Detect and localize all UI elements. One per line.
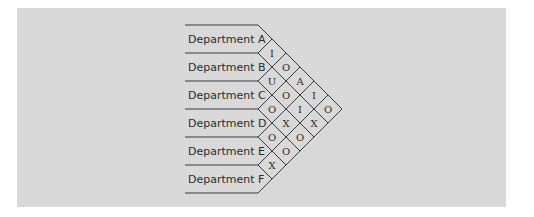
relationship-code: O — [282, 90, 290, 101]
relationship-code: I — [312, 90, 316, 101]
relationship-code: O — [296, 132, 304, 143]
relationship-code: X — [268, 160, 276, 171]
department-label: Department F — [188, 173, 264, 186]
relationship-code: O — [282, 62, 290, 73]
relationship-code: I — [298, 104, 302, 115]
department-label: Department A — [188, 33, 266, 46]
department-label: Department E — [188, 145, 265, 158]
relationship-code: O — [324, 104, 332, 115]
relationship-code: X — [310, 118, 318, 129]
chart-lines — [185, 25, 342, 193]
department-label: Department C — [188, 89, 266, 102]
relationship-code: O — [268, 132, 276, 143]
relationship-code: O — [282, 146, 290, 157]
relationship-code: O — [268, 104, 276, 115]
relationship-chart: Department ADepartment BDepartment CDepa… — [0, 0, 534, 217]
relationship-code: A — [295, 76, 304, 87]
department-label: Department B — [188, 61, 266, 74]
relationship-code: X — [282, 118, 290, 129]
relationship-code: U — [268, 76, 276, 87]
relationship-code: I — [270, 48, 274, 59]
department-label: Department D — [188, 117, 267, 130]
